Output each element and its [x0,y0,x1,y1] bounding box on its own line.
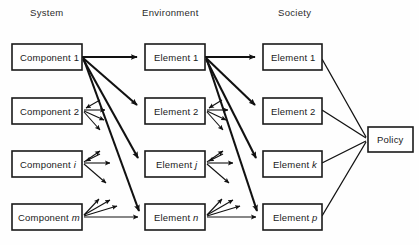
column-headers: System Environment Society [30,7,311,18]
edges-environment-to-society [205,57,257,211]
node-soc-element-p[interactable]: Element p [263,204,322,230]
ray-out-2-component-m [84,206,117,216]
node-soc-element-1[interactable]: Element 1 [263,44,322,70]
node-soc-element-k-label: Element k [273,159,318,170]
node-component-m[interactable]: Component m [12,204,82,230]
node-env-element-2[interactable]: Element 2 [145,98,205,124]
radiating-arrows-component-m [84,199,138,217]
node-env-element-n[interactable]: Element n [145,204,205,230]
column-environment-nodes: Element 1 Element 2 Element j Element n [145,44,205,230]
ray-out-2-env-element-j [207,164,229,183]
diagram-root: System Environment Society [0,0,419,245]
ray-out-2-component-i [84,164,106,183]
node-soc-element-1-label: Element 1 [271,52,316,63]
node-env-element-n-label: Element n [154,212,199,223]
radiating-arrows-component-i [84,151,110,183]
edge-env-element-1-to-soc-element-k [206,59,256,158]
edge-component-1-to-env-element-j [83,59,138,158]
radiating-arrows-env-element-j [207,151,233,183]
column-society-nodes: Element 1 Element 2 Element k Element p [263,44,322,230]
ray-inbound-env-element-j [209,154,223,161]
ray-inbound-env-element-2 [209,100,222,108]
column-header-environment: Environment [142,7,199,18]
node-component-i-label: Component i [20,159,77,170]
node-component-2-label: Component 2 [20,106,79,117]
node-component-2[interactable]: Component 2 [12,98,82,124]
node-component-1-label: Component 1 [20,52,79,63]
node-env-element-2-label: Element 2 [154,106,199,117]
edge-layer [82,57,366,217]
node-soc-element-p-label: Element p [273,212,318,223]
ray-out-2-env-element-n [207,206,240,216]
node-policy[interactable]: Policy [368,127,413,152]
ray-inbound-component-2 [86,100,100,108]
node-env-element-1-label: Element 1 [154,52,199,63]
node-soc-element-2-label: Element 2 [271,106,316,117]
diagram-canvas: System Environment Society [0,0,419,245]
ray-out-1-env-element-n [207,200,233,215]
node-env-element-1[interactable]: Element 1 [145,44,205,70]
radiating-arrows-component-2 [84,100,105,130]
radiating-arrows-env-element-n [207,199,256,217]
node-env-element-j[interactable]: Element j [145,151,205,177]
node-soc-element-k[interactable]: Element k [263,151,322,177]
edges-society-to-policy [322,59,366,216]
edge-soc-element-1-to-policy [322,59,366,137]
edges-system-to-environment [82,57,139,211]
edge-soc-element-p-to-policy [322,142,366,216]
node-component-i[interactable]: Component i [12,151,82,177]
node-soc-element-2[interactable]: Element 2 [263,98,322,124]
column-header-society: Society [278,7,311,18]
node-policy-label: Policy [377,134,404,145]
node-env-element-j-label: Element j [156,159,198,170]
node-component-m-label: Component m [18,212,80,223]
node-component-1[interactable]: Component 1 [12,44,82,70]
ray-out-1-component-m [84,200,110,215]
column-system-nodes: Component 1 Component 2 Component i Comp… [12,44,82,230]
column-header-system: System [30,7,63,18]
ray-inbound-component-i [86,154,100,161]
